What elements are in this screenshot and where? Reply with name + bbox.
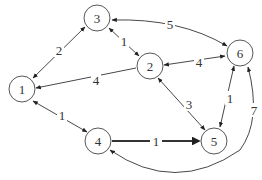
weight-label: 3	[186, 97, 193, 112]
edge-1-3: 2	[33, 27, 85, 78]
edge-2-1: 4	[36, 68, 136, 88]
node-label: 1	[19, 82, 26, 97]
node-label: 3	[94, 11, 101, 26]
weight-label: 1	[121, 34, 128, 49]
edge-4-5: 1	[112, 134, 199, 149]
weight-label: 4	[196, 55, 203, 70]
weight-label: 1	[227, 91, 234, 106]
weight-label: 1	[59, 108, 66, 123]
edge-2-6: 4	[164, 55, 225, 70]
weight-label: 5	[167, 17, 174, 32]
node-label: 6	[237, 46, 244, 61]
node-5: 5	[201, 128, 227, 154]
edge-6-5: 1	[220, 66, 235, 127]
node-3: 3	[84, 5, 110, 31]
node-label: 5	[211, 134, 218, 149]
graph-diagram: 2 4 1 1 5 4 3 1 1	[0, 0, 262, 180]
edge-2-5: 3	[158, 78, 205, 130]
weight-label: 4	[93, 73, 100, 88]
edge-1-4: 1	[33, 101, 87, 132]
node-2: 2	[137, 53, 163, 79]
graph-svg: 2 4 1 1 5 4 3 1 1	[0, 0, 262, 180]
node-1: 1	[9, 76, 35, 102]
weight-label: 7	[251, 103, 258, 118]
node-4: 4	[85, 128, 111, 154]
node-label: 4	[95, 134, 102, 149]
node-label: 2	[147, 59, 154, 74]
weight-label: 1	[153, 134, 160, 149]
edge-4-6-curve: 7	[110, 67, 259, 173]
edge-3-6: 5	[112, 17, 227, 46]
node-6: 6	[227, 40, 253, 66]
edge-3-2: 1	[109, 28, 139, 56]
weight-label: 2	[56, 43, 63, 58]
